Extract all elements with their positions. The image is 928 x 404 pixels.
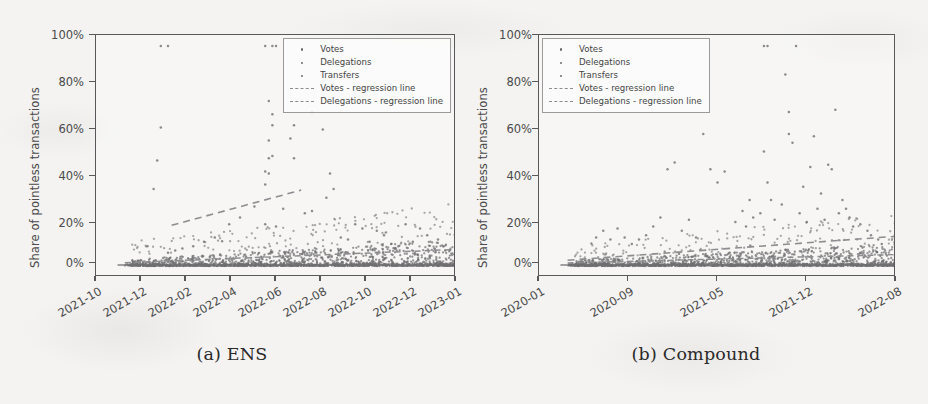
x-tickmark [94, 276, 95, 281]
y-tick-40: 40% [38, 169, 84, 183]
legend-item-votes-regression: Votes - regression line [548, 82, 702, 95]
x-tickmark [627, 276, 628, 281]
y-tick-60: 60% [486, 122, 532, 136]
x-tickmark [274, 276, 275, 281]
x-tick-label: 2023-01 [410, 284, 464, 323]
x-tick-label: 2021-12 [95, 284, 149, 323]
legend-label: Delegations [320, 56, 371, 69]
votes-marker-icon [289, 48, 315, 50]
x-tick-label: 2022-12 [365, 284, 419, 323]
x-tick-label: 2022-06 [230, 284, 284, 323]
y-tick-100: 100% [486, 28, 532, 42]
plot-area-compound: Share of pointless transactions 100% 80%… [464, 0, 928, 300]
x-tick-label: 2021-10 [50, 284, 104, 323]
x-tick-label: 2020-01 [493, 284, 547, 323]
legend-item-votes-regression: Votes - regression line [289, 82, 443, 95]
legend-item-delegations-regression: Delegations - regression line [548, 95, 702, 108]
plot-area-ens: Share of pointless transactions 100% 80%… [0, 0, 464, 300]
legend-item-delegations: Delegations [548, 56, 702, 69]
panel-caption-compound: (b) Compound [464, 344, 928, 364]
legend-item-transfers: Transfers [548, 69, 702, 82]
y-tick-80: 80% [38, 75, 84, 89]
legend-label: Votes - regression line [320, 82, 415, 95]
dashed-line-icon [289, 101, 315, 102]
legend-item-votes: Votes [548, 43, 702, 56]
figure-panel-compound: Share of pointless transactions 100% 80%… [464, 0, 928, 404]
legend-compound[interactable]: Votes Delegations Transfers Votes - regr… [542, 38, 710, 113]
legend-label: Transfers [320, 69, 359, 82]
x-tick-label: 2022-08 [850, 284, 904, 323]
legend-label: Votes - regression line [579, 82, 674, 95]
delegations-marker-icon [548, 62, 574, 64]
votes-marker-icon [548, 48, 574, 50]
y-tick-0: 0% [486, 256, 532, 270]
x-tickmark [454, 276, 455, 281]
y-tick-0: 0% [38, 256, 84, 270]
legend-item-delegations: Delegations [289, 56, 443, 69]
y-tick-100: 100% [38, 28, 84, 42]
x-tickmark [894, 276, 895, 281]
regression-line-votes [172, 190, 302, 225]
transfers-marker-icon [548, 75, 574, 77]
y-tick-60: 60% [38, 122, 84, 136]
legend-label: Delegations - regression line [320, 95, 443, 108]
legend-label: Votes [579, 43, 603, 56]
x-tick-label: 2021-12 [761, 284, 815, 323]
panel-caption-ens: (a) ENS [0, 344, 464, 364]
axes-frame-ens: Votes Delegations Transfers Votes - regr… [95, 34, 455, 276]
x-tickmark [184, 276, 185, 281]
axes-frame-compound: Votes Delegations Transfers Votes - regr… [538, 34, 895, 276]
x-tick-label: 2022-02 [140, 284, 194, 323]
x-tick-label: 2022-10 [320, 284, 374, 323]
transfers-marker-icon [289, 75, 315, 77]
x-tick-label: 2022-04 [185, 284, 239, 323]
x-tickmark [805, 276, 806, 281]
x-tickmark [319, 276, 320, 281]
x-tickmark [537, 276, 538, 281]
legend-item-transfers: Transfers [289, 69, 443, 82]
legend-item-votes: Votes [289, 43, 443, 56]
x-tickmark [409, 276, 410, 281]
legend-item-delegations-regression: Delegations - regression line [289, 95, 443, 108]
y-tick-80: 80% [486, 75, 532, 89]
x-tick-label: 2021-05 [672, 284, 726, 323]
legend-ens[interactable]: Votes Delegations Transfers Votes - regr… [283, 38, 451, 113]
x-tickmark [139, 276, 140, 281]
x-tickmark [229, 276, 230, 281]
delegations-marker-icon [289, 62, 315, 64]
y-tick-40: 40% [486, 169, 532, 183]
legend-label: Votes [320, 43, 344, 56]
dashed-line-icon [289, 88, 315, 89]
x-tick-label: 2020-09 [582, 284, 636, 323]
x-tickmark [364, 276, 365, 281]
legend-label: Transfers [579, 69, 618, 82]
dashed-line-icon [548, 88, 574, 89]
dashed-line-icon [548, 101, 574, 102]
figure-panel-ens: Share of pointless transactions 100% 80%… [0, 0, 464, 404]
y-tick-20: 20% [486, 216, 532, 230]
legend-label: Delegations - regression line [579, 95, 702, 108]
x-tickmark [716, 276, 717, 281]
x-tick-label: 2022-08 [275, 284, 329, 323]
legend-label: Delegations [579, 56, 630, 69]
y-tick-20: 20% [38, 216, 84, 230]
